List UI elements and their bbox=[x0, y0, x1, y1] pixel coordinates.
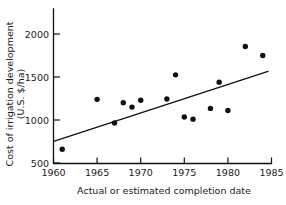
chart-figure: 2000 1500 1000 500 1960 1965 1970 1975 1… bbox=[0, 0, 286, 205]
data-point bbox=[94, 97, 99, 102]
data-point bbox=[138, 98, 143, 103]
xtick-label-1980: 1980 bbox=[216, 167, 240, 178]
data-points-group bbox=[60, 44, 266, 152]
data-point bbox=[121, 100, 126, 105]
data-point bbox=[60, 147, 65, 152]
ytick-label-1000: 1000 bbox=[25, 115, 49, 126]
data-point bbox=[260, 53, 265, 58]
data-point bbox=[112, 120, 117, 125]
xtick-label-1985: 1985 bbox=[259, 167, 283, 178]
xtick-label-1970: 1970 bbox=[129, 167, 153, 178]
trend-line bbox=[54, 71, 268, 141]
data-point bbox=[164, 96, 169, 101]
data-point bbox=[243, 44, 248, 49]
data-point bbox=[190, 116, 195, 121]
data-point bbox=[208, 106, 213, 111]
xtick-label-1960: 1960 bbox=[41, 167, 65, 178]
ytick-label-2000: 2000 bbox=[25, 29, 49, 40]
x-tick-marks bbox=[54, 158, 272, 164]
scatter-plot-svg: 2000 1500 1000 500 1960 1965 1970 1975 1… bbox=[0, 0, 286, 205]
data-point bbox=[216, 79, 221, 84]
y-axis-label-line2: (U.S. $/ha) bbox=[15, 69, 26, 120]
xtick-label-1975: 1975 bbox=[172, 167, 196, 178]
y-tick-marks bbox=[54, 34, 61, 163]
data-point bbox=[129, 104, 134, 109]
x-axis-label: Actual or estimated completion date bbox=[77, 185, 251, 196]
data-point bbox=[225, 108, 230, 113]
ytick-label-1500: 1500 bbox=[25, 72, 49, 83]
data-point bbox=[173, 72, 178, 77]
data-point bbox=[182, 114, 187, 119]
plot-axes bbox=[54, 9, 272, 164]
xtick-label-1965: 1965 bbox=[85, 167, 109, 178]
y-axis-label-line1: Cost of irrigation development bbox=[4, 21, 15, 166]
